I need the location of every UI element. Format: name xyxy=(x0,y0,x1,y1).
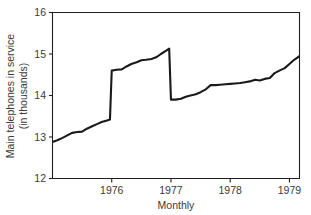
x-axis-title: Monthly xyxy=(158,199,196,211)
y-axis-title-line1: Main telephones in service xyxy=(4,34,16,158)
data-series-group xyxy=(53,49,300,142)
chart-container: 1213141516 1976197719781979 Main telepho… xyxy=(0,0,311,215)
plot-frame xyxy=(53,13,300,179)
axis-frame xyxy=(53,13,300,179)
x-axis-ticks: 1976197719781979 xyxy=(100,179,301,196)
y-tick-label: 15 xyxy=(34,48,46,60)
x-tick-label: 1978 xyxy=(219,184,243,196)
y-axis-ticks: 1213141516 xyxy=(34,6,52,184)
y-axis-title: Main telephones in service (in thousands… xyxy=(4,34,29,158)
data-line-main-telephones xyxy=(53,49,300,142)
y-tick-label: 14 xyxy=(34,89,46,101)
x-tick-label: 1977 xyxy=(159,184,183,196)
x-tick-label: 1976 xyxy=(100,184,124,196)
line-chart: 1213141516 1976197719781979 Main telepho… xyxy=(0,0,311,215)
y-tick-label: 16 xyxy=(34,6,46,18)
x-tick-label: 1979 xyxy=(278,184,302,196)
y-axis-title-line2: (in thousands) xyxy=(17,63,29,130)
y-tick-label: 12 xyxy=(34,172,46,184)
y-tick-label: 13 xyxy=(34,131,46,143)
